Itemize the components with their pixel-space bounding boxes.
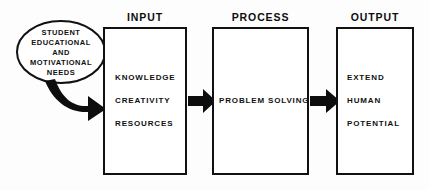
input-item-knowledge: KNOWLEDGE: [115, 73, 176, 82]
curved-arrow-needs-to-input-icon: [45, 79, 106, 121]
needs-ellipse-line-1: EDUCATIONAL: [31, 38, 91, 47]
output-item-human: HUMAN: [347, 96, 381, 105]
column-header-process: PROCESS: [212, 11, 309, 23]
input-item-resources: RESOURCES: [115, 119, 173, 128]
diagram-canvas: STUDENT EDUCATIONAL AND MOTIVATIONAL NEE…: [0, 0, 429, 190]
needs-ellipse-line-2: AND: [52, 48, 70, 57]
needs-ellipse-line-4: NEEDS: [47, 68, 75, 77]
output-item-potential: POTENTIAL: [347, 119, 400, 128]
column-header-input: INPUT: [103, 11, 187, 23]
needs-ellipse-line-3: MOTIVATIONAL: [30, 58, 92, 67]
output-item-extend: EXTEND: [347, 73, 385, 82]
column-header-output: OUTPUT: [336, 11, 414, 23]
input-item-creativity: CREATIVITY: [115, 96, 170, 105]
needs-ellipse-line-0: STUDENT: [42, 28, 81, 37]
process-item-problem-solving: PROBLEM SOLVING: [219, 96, 309, 105]
